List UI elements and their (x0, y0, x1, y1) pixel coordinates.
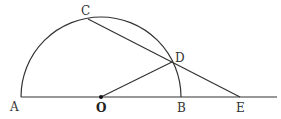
geometry-diagram: A O B E C D (0, 0, 281, 119)
label-a: A (9, 100, 19, 114)
label-b: B (177, 101, 186, 115)
label-d: D (175, 51, 185, 65)
label-o: O (96, 101, 106, 115)
label-e: E (236, 101, 245, 115)
segment-od (101, 62, 172, 97)
semicircle-arc (21, 17, 181, 97)
center-point-o (99, 95, 103, 99)
segment-ce (88, 19, 240, 97)
label-c: C (81, 4, 90, 18)
